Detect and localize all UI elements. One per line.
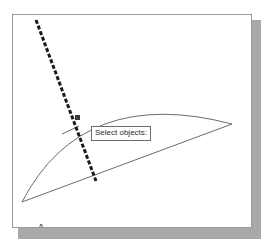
- vertex-label-b: B: [251, 135, 252, 147]
- pickbox-cursor-icon: [75, 115, 80, 120]
- selection-crossing-line[interactable]: [36, 20, 96, 181]
- drawing-canvas[interactable]: [13, 15, 251, 227]
- select-objects-prompt: Select objects:: [91, 126, 151, 141]
- vertex-label-a: A: [37, 223, 45, 228]
- drawing-viewport[interactable]: A B Select objects:: [12, 14, 252, 228]
- cad-screenshot-root: A B Select objects:: [0, 0, 271, 247]
